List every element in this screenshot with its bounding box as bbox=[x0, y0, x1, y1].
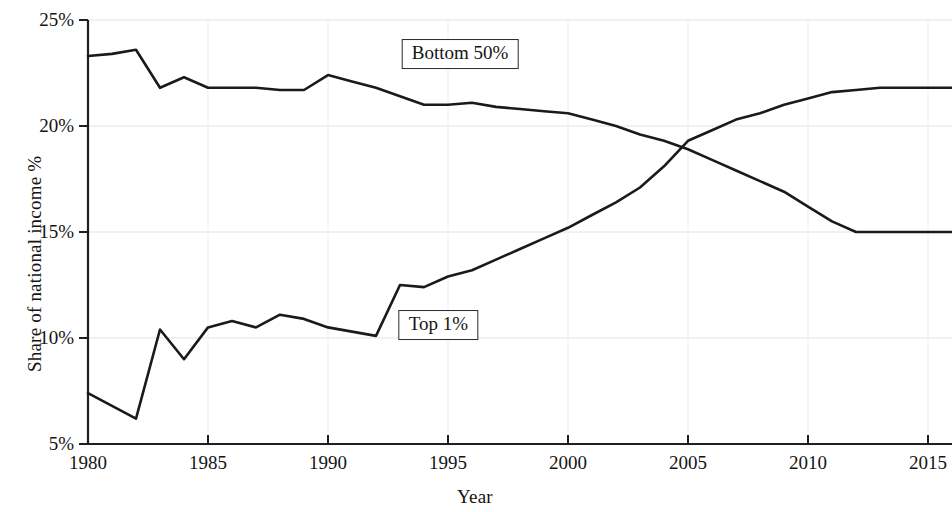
y-tick-label: 10% bbox=[39, 327, 74, 349]
y-tick-label: 25% bbox=[39, 9, 74, 31]
series-label-bottom-50: Bottom 50% bbox=[402, 39, 519, 69]
x-tick-label: 2015 bbox=[909, 452, 947, 474]
x-tick-label: 1995 bbox=[429, 452, 467, 474]
line-chart-canvas bbox=[0, 0, 952, 512]
x-tick-label: 1985 bbox=[189, 452, 227, 474]
y-tick-label: 20% bbox=[39, 115, 74, 137]
x-tick-label: 2000 bbox=[549, 452, 587, 474]
series-line-top-1 bbox=[88, 88, 952, 419]
x-axis-label: Year bbox=[457, 486, 493, 508]
x-tick-label: 1980 bbox=[69, 452, 107, 474]
x-tick-label: 2010 bbox=[789, 452, 827, 474]
series-label-top-1: Top 1% bbox=[399, 310, 478, 340]
series-line-bottom-50 bbox=[88, 50, 952, 232]
gridlines bbox=[88, 20, 952, 444]
x-tick-label: 1990 bbox=[309, 452, 347, 474]
x-tick-label: 2005 bbox=[669, 452, 707, 474]
chart-figure: Share of national income % Year 5%10%15%… bbox=[0, 0, 952, 512]
y-tick-label: 15% bbox=[39, 221, 74, 243]
